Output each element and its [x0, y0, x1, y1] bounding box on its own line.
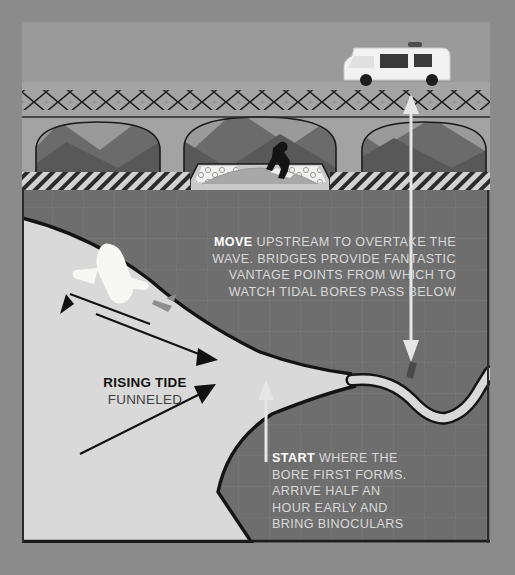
- rising-tide-line1: RISING TIDE: [80, 374, 210, 391]
- start-lead: START: [272, 451, 315, 465]
- bridge-elevation-group: [22, 22, 490, 190]
- van-side-window: [380, 54, 408, 68]
- rising-tide-line2: FUNNELED: [80, 391, 210, 408]
- infographic-canvas: MOVE UPSTREAM TO OVERTAKE THE WAVE. BRID…: [0, 0, 515, 575]
- illustration-panel: MOVE UPSTREAM TO OVERTAKE THE WAVE. BRID…: [22, 22, 490, 543]
- move-annotation: MOVE UPSTREAM TO OVERTAKE THE WAVE. BRID…: [204, 234, 456, 300]
- van-rear-window: [414, 54, 432, 67]
- bridge-deck-top: [22, 82, 490, 90]
- bridge-deck-band: [22, 110, 490, 117]
- van-rear-wheel: [426, 74, 438, 86]
- foreground-hatch-left: [22, 172, 190, 190]
- van-front-wheel: [360, 74, 372, 86]
- start-annotation: START WHERE THE BORE FIRST FORMS. ARRIVE…: [272, 450, 412, 533]
- move-lead: MOVE: [214, 235, 253, 249]
- camper-van: [344, 42, 450, 86]
- van-roof-vent: [408, 42, 422, 47]
- bridge-railing: [22, 90, 490, 110]
- rising-tide-label: RISING TIDE FUNNELED: [80, 374, 210, 408]
